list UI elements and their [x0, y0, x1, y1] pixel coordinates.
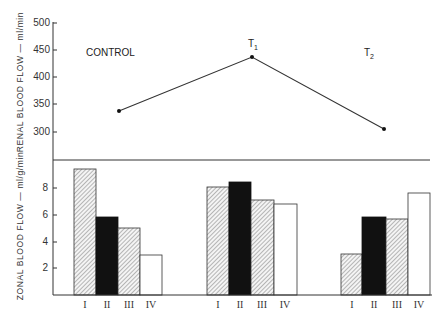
bar-t2-III [386, 219, 408, 295]
zonal-tick-6: 6 [42, 209, 48, 220]
bar-t2-I [341, 254, 362, 295]
zonal-y-axis: 8 6 4 2 [42, 160, 57, 295]
zone-label: I [350, 299, 353, 310]
zone-label: I [216, 299, 219, 310]
t2-label: T2 [364, 47, 374, 60]
zone-label: II [104, 299, 111, 310]
zone-labels-t2: I II III IV [350, 299, 425, 310]
data-point-t1 [250, 55, 254, 59]
zonal-tick-2: 2 [42, 262, 48, 273]
renal-flow-line [117, 55, 386, 131]
bar-control-I [74, 169, 96, 295]
chart-canvas: RENAL BLOOD FLOW — ml/min ZONAL BLOOD FL… [0, 0, 445, 323]
bar-control-II [96, 217, 118, 295]
renal-tick-500: 500 [33, 17, 50, 28]
renal-tick-400: 400 [33, 71, 50, 82]
zonal-tick-8: 8 [42, 182, 48, 193]
zone-label: IV [280, 299, 291, 310]
zonal-tick-4: 4 [42, 236, 48, 247]
renal-y-axis: 500 450 400 350 300 [33, 17, 57, 160]
bar-t1-I [207, 187, 229, 295]
zone-label: II [237, 299, 244, 310]
zone-label: III [257, 299, 267, 310]
t1-label: T1 [248, 38, 258, 51]
bar-control-III [118, 228, 140, 295]
zone-label: I [83, 299, 86, 310]
zone-label: III [392, 299, 402, 310]
bar-group-t2 [341, 193, 430, 295]
bar-group-t1 [207, 182, 297, 295]
zone-labels-t1: I II III IV [216, 299, 291, 310]
bar-t2-IV [408, 193, 430, 295]
renal-tick-300: 300 [33, 126, 50, 137]
renal-tick-450: 450 [33, 44, 50, 55]
bar-group-control [74, 169, 162, 295]
zone-label: III [124, 299, 134, 310]
control-label: CONTROL [86, 47, 135, 58]
data-point-t2 [382, 127, 386, 131]
renal-axis-title: RENAL BLOOD FLOW — ml/min [15, 12, 25, 152]
zone-label: IV [146, 299, 157, 310]
bar-t1-II [229, 182, 251, 295]
zone-label: IV [414, 299, 425, 310]
bar-t1-III [251, 200, 274, 295]
data-point-control [117, 109, 121, 113]
zonal-axis-title: ZONAL BLOOD FLOW — ml/g/min [15, 152, 25, 301]
zone-label: II [371, 299, 378, 310]
bar-control-IV [140, 255, 162, 295]
renal-tick-350: 350 [33, 98, 50, 109]
zone-labels-control: I II III IV [83, 299, 157, 310]
bar-t1-IV [274, 204, 297, 295]
bar-t2-II [362, 217, 386, 295]
